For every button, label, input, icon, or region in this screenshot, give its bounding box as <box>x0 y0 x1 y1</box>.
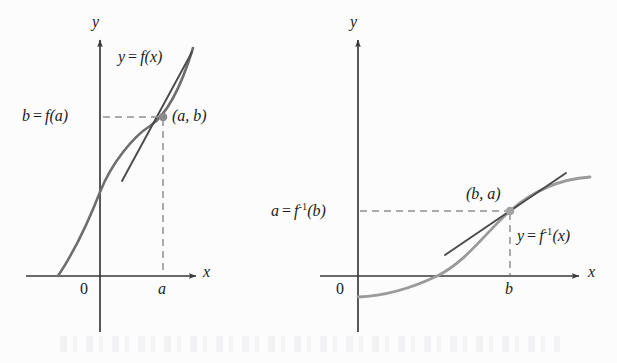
left-origin-label: 0 <box>80 281 88 297</box>
left-x-tick-label: a <box>158 281 166 297</box>
scan-artifact-bleed <box>60 336 560 352</box>
left-curve-equals: = <box>128 48 137 65</box>
right-y-tick-equals: = <box>282 202 291 219</box>
left-y-tick-equals: = <box>33 107 42 124</box>
left-y-tick-label: b=f(a) <box>22 108 68 124</box>
right-y-tick-lhs: a <box>271 202 279 219</box>
left-point-a-b <box>159 113 168 122</box>
right-curve-arg: (x) <box>552 227 570 244</box>
figure-canvas <box>0 0 617 363</box>
left-curve-lhs: y <box>118 48 125 65</box>
right-point-label: (b, a) <box>466 186 501 202</box>
left-y-tick-arg: (a) <box>49 107 68 124</box>
right-y-tick-exponent: -1 <box>298 201 307 212</box>
right-curve-equals: = <box>527 227 536 244</box>
right-x-axis-label: x <box>588 264 595 280</box>
right-x-tick-label: b <box>505 281 513 297</box>
right-curve-lhs: y <box>517 227 524 244</box>
left-curve-f <box>58 48 193 276</box>
right-y-axis-label: y <box>350 14 357 30</box>
left-x-axis-label: x <box>203 264 210 280</box>
left-panel-graph <box>26 40 196 332</box>
inverse-function-figure: y x 0 a b=f(a) y=f(x) (a, b) y x 0 b a=f… <box>0 0 617 363</box>
right-point-b-a <box>506 207 515 216</box>
left-curve-label: y=f(x) <box>118 49 162 65</box>
right-curve-label: y=f-1(x) <box>517 227 570 244</box>
right-y-tick-arg: (b) <box>307 202 326 219</box>
left-y-axis-label: y <box>92 14 99 30</box>
left-point-label: (a, b) <box>172 108 207 124</box>
right-panel-graph <box>320 40 590 332</box>
right-origin-label: 0 <box>336 281 344 297</box>
right-y-tick-label: a=f-1(b) <box>271 202 326 219</box>
left-y-tick-lhs: b <box>22 107 30 124</box>
left-curve-arg: (x) <box>145 48 163 65</box>
